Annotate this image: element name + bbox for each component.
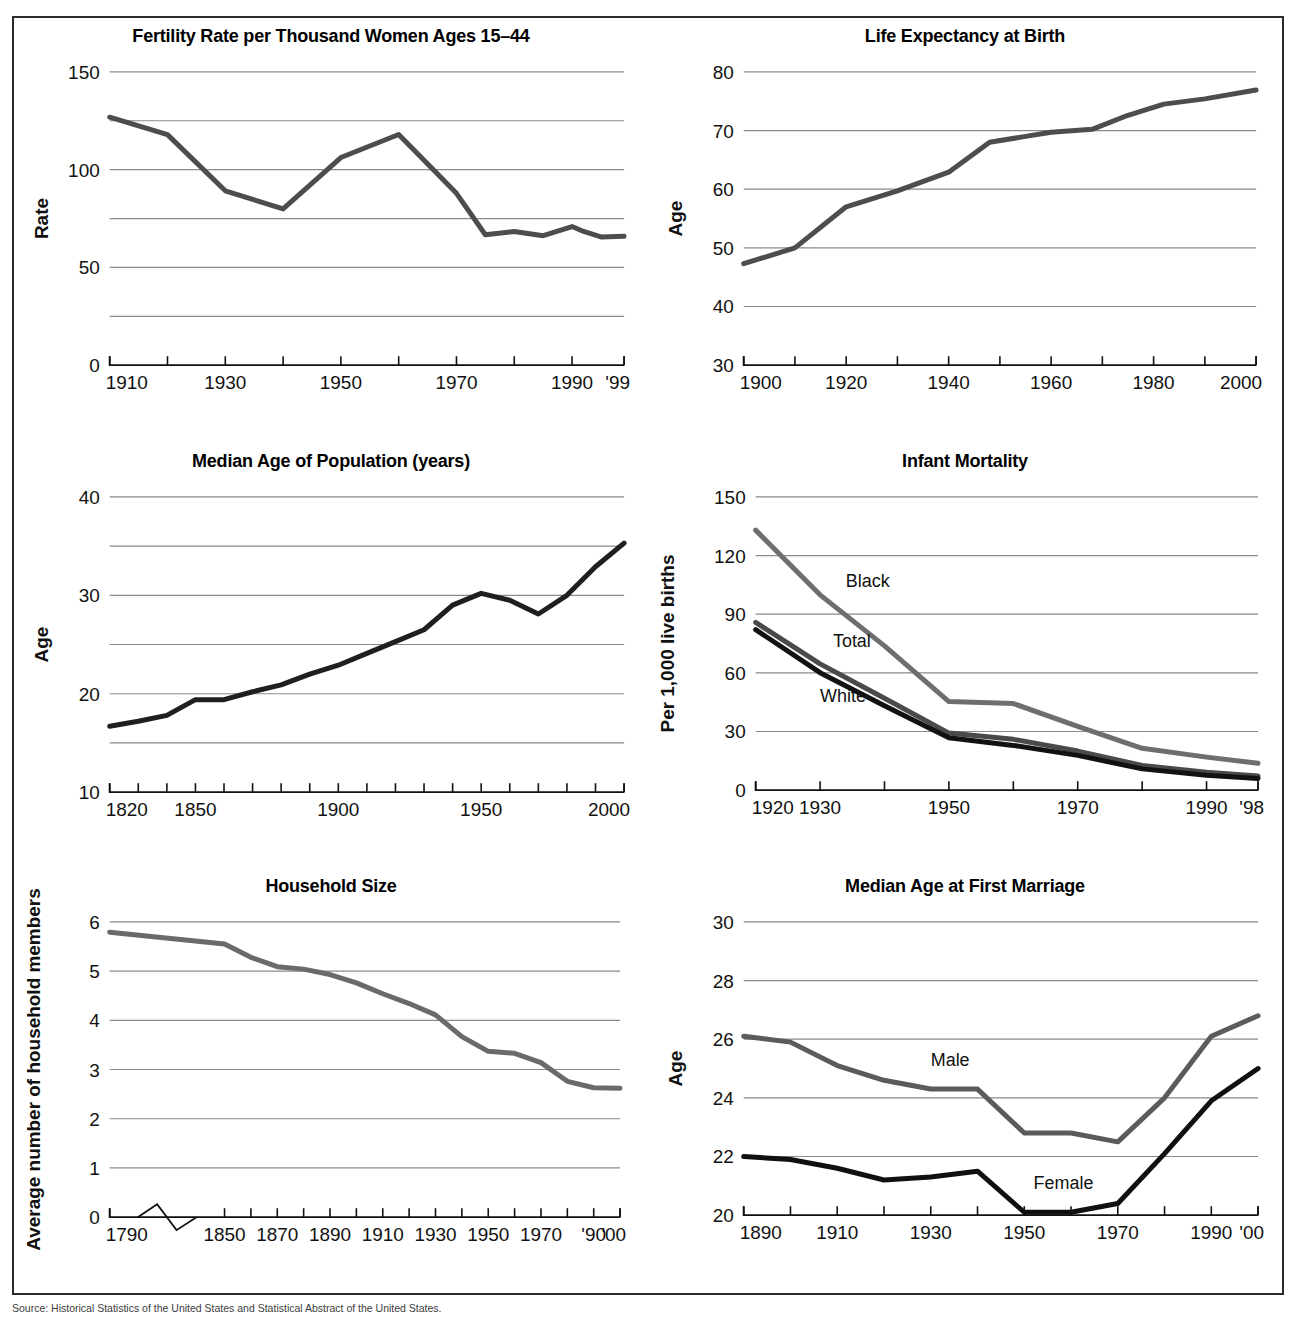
- y-tick-label: 3: [89, 1060, 100, 1081]
- y-tick-label: 150: [68, 62, 100, 83]
- y-tick-label: 30: [725, 721, 746, 742]
- panel-fertility: Fertility Rate per Thousand Women Ages 1…: [14, 18, 648, 443]
- figure-frame: Fertility Rate per Thousand Women Ages 1…: [12, 16, 1284, 1295]
- x-tick-label: 1990: [551, 372, 593, 393]
- y-tick-label: 50: [713, 238, 734, 259]
- y-tick-label: 10: [79, 782, 100, 803]
- y-tick-label: 20: [79, 684, 100, 705]
- plot-fertility: 050100150Rate19101930195019701990'99: [14, 18, 648, 443]
- x-tick-label: 1870: [256, 1224, 298, 1245]
- y-tick-label: 24: [713, 1088, 734, 1109]
- y-axis-label: Age: [31, 627, 52, 663]
- x-tick-label: 1790: [106, 1224, 148, 1245]
- x-tick-label: 1950: [467, 1224, 509, 1245]
- x-tick-label: '99: [605, 372, 630, 393]
- y-tick-label: 30: [713, 912, 734, 933]
- y-tick-label: 5: [89, 961, 100, 982]
- y-tick-label: 100: [68, 160, 100, 181]
- y-tick-label: 22: [713, 1146, 734, 1167]
- series-line-life-expectancy: [744, 90, 1256, 264]
- series-label-total: Total: [833, 631, 871, 651]
- chart-grid: Fertility Rate per Thousand Women Ages 1…: [14, 18, 1282, 1293]
- plot-median-age-first-marriage: 202224262830Age189019101930195019701990'…: [648, 868, 1282, 1293]
- x-tick-label: 1930: [204, 372, 246, 393]
- x-tick-label: 1940: [928, 372, 970, 393]
- axis-line: [110, 1208, 620, 1217]
- series-line-female: [744, 1069, 1258, 1213]
- x-tick-label: 1990: [1185, 797, 1227, 818]
- x-tick-label: 1980: [1133, 372, 1175, 393]
- x-tick-label: '00: [601, 1224, 626, 1245]
- x-tick-label: 1950: [1003, 1222, 1045, 1243]
- y-axis-label: Per 1,000 live births: [657, 555, 678, 733]
- y-axis-label: Rate: [31, 198, 52, 239]
- series-line-median-age: [110, 543, 624, 726]
- plot-median-age-population: 10203040Age18201850190019502000: [14, 443, 648, 868]
- x-tick-label: 1970: [1057, 797, 1099, 818]
- x-tick-label: 1930: [799, 797, 841, 818]
- x-tick-label: 1930: [414, 1224, 456, 1245]
- chart-svg-life-expectancy: 304050607080Age190019201940196019802000: [648, 18, 1282, 443]
- axis-line: [744, 1206, 1258, 1215]
- panel-life-expectancy: Life Expectancy at Birth 304050607080Age…: [648, 18, 1282, 443]
- y-tick-label: 26: [713, 1029, 734, 1050]
- y-axis-label: Age: [665, 1051, 686, 1087]
- x-tick-label: 2000: [588, 799, 630, 820]
- series-label-male: Male: [931, 1050, 970, 1070]
- x-tick-label: 1910: [362, 1224, 404, 1245]
- x-tick-label: '98: [1239, 797, 1264, 818]
- y-axis-label: Age: [665, 201, 686, 237]
- chart-svg-median-age-population: 10203040Age18201850190019502000: [14, 443, 648, 868]
- axis-line: [110, 356, 624, 365]
- x-tick-label: 1920: [752, 797, 794, 818]
- x-tick-label: 1970: [1097, 1222, 1139, 1243]
- y-tick-label: 0: [89, 355, 100, 376]
- x-tick-label: 1900: [740, 372, 782, 393]
- x-tick-label: 1850: [203, 1224, 245, 1245]
- series-line-household-size: [110, 932, 620, 1088]
- x-tick-label: 1950: [320, 372, 362, 393]
- y-tick-label: 28: [713, 971, 734, 992]
- plot-infant-mortality: 0306090120150Per 1,000 live births192019…: [648, 443, 1282, 868]
- series-line-male: [744, 1016, 1258, 1142]
- x-tick-label: 1890: [309, 1224, 351, 1245]
- y-tick-label: 150: [714, 487, 746, 508]
- series-label-white: White: [820, 686, 866, 706]
- series-label-female: Female: [1034, 1173, 1094, 1193]
- y-tick-label: 90: [725, 604, 746, 625]
- plot-life-expectancy: 304050607080Age190019201940196019802000: [648, 18, 1282, 443]
- chart-svg-fertility: 050100150Rate19101930195019701990'99: [14, 18, 648, 443]
- x-tick-label: 1890: [740, 1222, 782, 1243]
- y-tick-label: 70: [713, 121, 734, 142]
- x-tick-label: 1920: [825, 372, 867, 393]
- x-tick-label: 1970: [520, 1224, 562, 1245]
- y-tick-label: 0: [89, 1207, 100, 1228]
- y-tick-label: 30: [713, 355, 734, 376]
- x-tick-label: 1950: [460, 799, 502, 820]
- y-tick-label: 30: [79, 585, 100, 606]
- y-tick-label: 60: [713, 179, 734, 200]
- source-note: Source: Historical Statistics of the Uni…: [12, 1302, 1284, 1316]
- y-tick-label: 80: [713, 62, 734, 83]
- series-line-black: [756, 530, 1258, 763]
- series-label-black: Black: [846, 571, 890, 591]
- panel-infant-mortality: Infant Mortality 0306090120150Per 1,000 …: [648, 443, 1282, 868]
- chart-svg-household-size: 0123456Average number of household membe…: [14, 868, 648, 1293]
- x-tick-label: '00: [1239, 1222, 1264, 1243]
- panel-household-size: Household Size 0123456Average number of …: [14, 868, 648, 1293]
- y-tick-label: 20: [713, 1205, 734, 1226]
- chart-svg-infant-mortality: 0306090120150Per 1,000 live births192019…: [648, 443, 1282, 868]
- y-tick-label: 4: [89, 1010, 100, 1031]
- x-tick-label: 1990: [1190, 1222, 1232, 1243]
- x-tick-label: 1900: [317, 799, 359, 820]
- panel-median-age-population: Median Age of Population (years) 1020304…: [14, 443, 648, 868]
- x-tick-label: 1910: [816, 1222, 858, 1243]
- axis-line: [756, 781, 1258, 790]
- y-tick-label: 2: [89, 1109, 100, 1130]
- x-tick-label: 1820: [106, 799, 148, 820]
- y-tick-label: 0: [735, 780, 746, 801]
- y-tick-label: 60: [725, 663, 746, 684]
- x-tick-label: 1950: [928, 797, 970, 818]
- y-axis-label: Average number of household members: [23, 888, 44, 1251]
- y-tick-label: 50: [79, 257, 100, 278]
